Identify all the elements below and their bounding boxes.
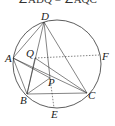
label-D: D: [40, 10, 49, 22]
point-labels: DAQFBCPE: [4, 10, 109, 120]
segment-QF: [35, 55, 100, 58]
label-F: F: [101, 50, 109, 62]
segment-QC: [35, 58, 87, 93]
segment-BC: [27, 93, 87, 94]
label-B: B: [20, 94, 27, 106]
label-A: A: [4, 52, 12, 64]
geometry-figure: DAQFBCPE: [0, 0, 115, 126]
label-E: E: [50, 108, 58, 120]
segment-BQ: [27, 58, 35, 94]
label-P: P: [47, 76, 55, 88]
label-C: C: [88, 89, 96, 101]
label-Q: Q: [26, 47, 34, 59]
